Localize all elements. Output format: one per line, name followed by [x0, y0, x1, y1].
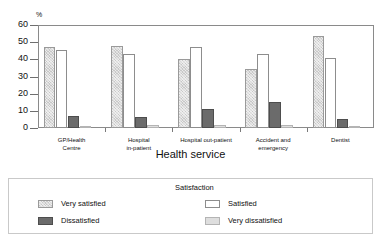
- bar-group: [172, 25, 239, 128]
- y-axis-tick-label: 40: [2, 54, 28, 63]
- y-axis-tick: [30, 59, 38, 60]
- x-axis-category-label-line: Accident and: [240, 137, 307, 145]
- y-axis-tick: [30, 25, 38, 26]
- y-axis-tick-label: 10: [2, 106, 28, 115]
- legend-label: Dissatisfied: [61, 216, 99, 225]
- light-gray-swatch: [205, 217, 220, 225]
- bar-satisfied: [56, 50, 68, 128]
- y-axis-tick: [30, 94, 38, 95]
- x-axis-category-label-line: Hospital: [105, 137, 172, 145]
- legend-label: Very dissatisfied: [228, 216, 282, 225]
- bar-satisfied: [325, 58, 337, 128]
- x-axis-category-label: Dentist: [307, 137, 374, 145]
- bar-dissatisfied: [337, 119, 349, 128]
- bar-very-dissatisfied: [80, 126, 92, 128]
- y-axis-tick-label: 50: [2, 37, 28, 46]
- bar-dissatisfied: [202, 109, 214, 128]
- chart-figure: % 0102030405060 GP/HealthCentreHospitali…: [0, 0, 381, 239]
- y-axis-tick: [30, 42, 38, 43]
- bar-group: [307, 25, 374, 128]
- dark-gray-swatch: [38, 217, 53, 225]
- bar-dissatisfied: [135, 117, 147, 128]
- bar-satisfied: [257, 54, 269, 128]
- x-axis-category-label-line: GP/Health: [38, 137, 105, 145]
- legend-label: Very satisfied: [61, 199, 106, 208]
- y-axis-tick-label: 20: [2, 89, 28, 98]
- bar-very-satisfied: [44, 47, 56, 128]
- legend-entry[interactable]: Very dissatisfied: [205, 215, 282, 226]
- y-axis-tick-label: 0: [2, 123, 28, 132]
- x-axis-separator-tick: [105, 128, 106, 132]
- bar-dissatisfied: [269, 102, 281, 128]
- bar-group: [105, 25, 172, 128]
- x-axis-category-label-line: Hospital out-patient: [172, 137, 239, 145]
- legend-entry[interactable]: Very satisfied: [38, 198, 106, 209]
- y-axis-tick: [30, 77, 38, 78]
- y-axis-tick-label: 60: [2, 20, 28, 29]
- legend-entry[interactable]: Satisfied: [205, 198, 257, 209]
- bar-group: [240, 25, 307, 128]
- y-axis-tick-label: 30: [2, 72, 28, 81]
- legend-title: Satisfaction: [175, 183, 214, 192]
- y-axis-unit-label: %: [36, 11, 42, 18]
- bar-very-dissatisfied: [281, 125, 293, 128]
- x-axis-category-label: Hospital out-patient: [172, 137, 239, 145]
- white-swatch: [205, 200, 220, 208]
- bar-very-satisfied: [313, 36, 325, 128]
- legend-label: Satisfied: [228, 199, 257, 208]
- bar-very-satisfied: [111, 46, 123, 128]
- x-axis-separator-tick: [240, 128, 241, 132]
- x-axis-category-label-line: Dentist: [307, 137, 374, 145]
- hatched-light-gray-swatch: [38, 200, 53, 208]
- y-axis-tick: [30, 128, 38, 129]
- bar-satisfied: [190, 47, 202, 128]
- x-axis-separator-tick: [172, 128, 173, 132]
- x-axis-separator-tick: [307, 128, 308, 132]
- bar-satisfied: [123, 54, 135, 128]
- bar-very-dissatisfied: [349, 126, 361, 128]
- bar-very-satisfied: [178, 59, 190, 128]
- y-axis-tick: [30, 111, 38, 112]
- bar-very-dissatisfied: [147, 125, 159, 128]
- bar-very-dissatisfied: [214, 125, 226, 128]
- bar-very-satisfied: [245, 69, 257, 128]
- bar-group: [38, 25, 105, 128]
- bar-dissatisfied: [68, 116, 80, 128]
- legend-entry[interactable]: Dissatisfied: [38, 215, 99, 226]
- x-axis-title: Health service: [0, 148, 381, 160]
